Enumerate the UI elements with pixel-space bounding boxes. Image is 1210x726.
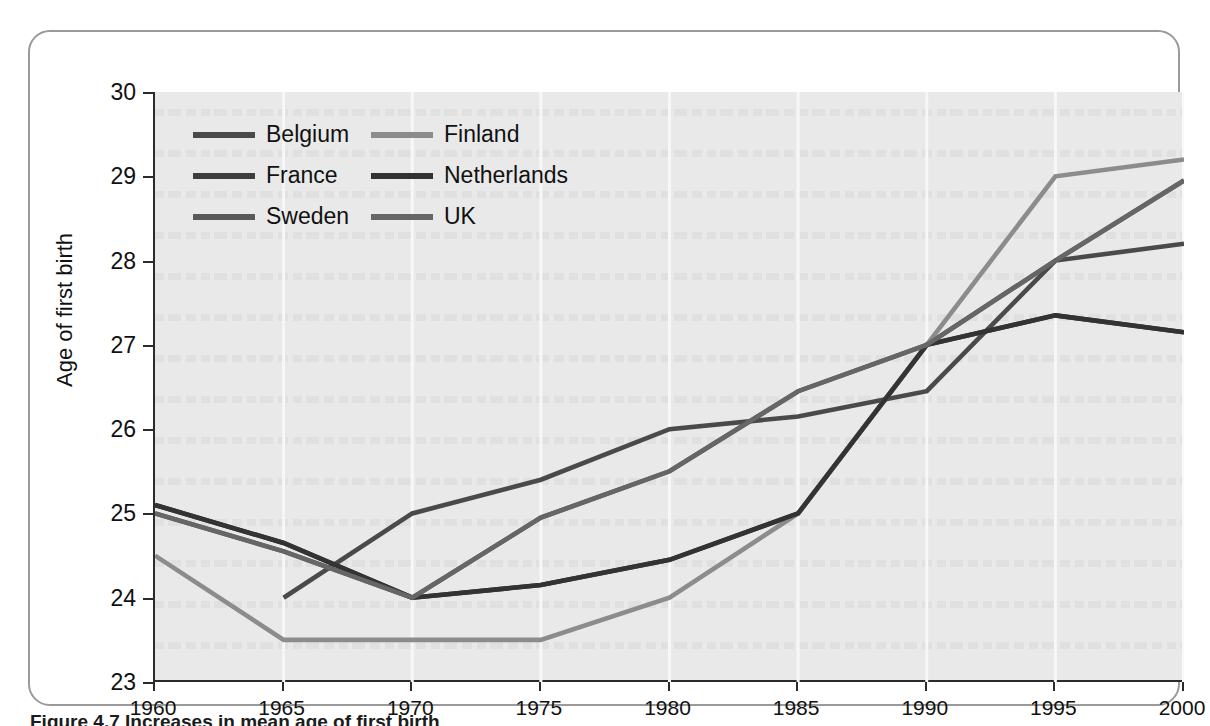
chart-legend: BelgiumFinlandFranceNetherlandsSwedenUK: [193, 114, 561, 237]
x-tick-mark-1970: [410, 682, 412, 691]
series-line-sweden: [155, 181, 1184, 598]
x-tick-label-1980: 1980: [623, 696, 713, 720]
y-tick-mark-24: [143, 598, 153, 600]
y-tick-mark-27: [143, 345, 153, 347]
x-tick-mark-2000: [1182, 682, 1184, 691]
y-tick-mark-29: [143, 176, 153, 178]
legend-label-uk: UK: [444, 203, 476, 230]
legend-item-belgium: Belgium: [193, 121, 371, 148]
legend-label-netherlands: Netherlands: [444, 162, 568, 189]
y-tick-mark-23: [143, 682, 153, 684]
x-tick-label-1995: 1995: [1008, 696, 1098, 720]
y-tick-label-30: 30: [96, 81, 136, 104]
x-tick-label-1985: 1985: [751, 696, 841, 720]
legend-swatch-finland: [371, 132, 433, 138]
figure-frame: BelgiumFinlandFranceNetherlandsSwedenUK …: [28, 30, 1180, 706]
legend-item-uk: UK: [371, 203, 561, 230]
y-tick-label-23: 23: [96, 671, 136, 694]
x-tick-mark-1965: [282, 682, 284, 691]
legend-item-finland: Finland: [371, 121, 561, 148]
x-tick-mark-1990: [925, 682, 927, 691]
legend-label-france: France: [266, 162, 338, 189]
x-tick-mark-1975: [539, 682, 541, 691]
series-line-belgium: [284, 244, 1184, 598]
figure-caption-number: Figure 4.7: [30, 711, 120, 726]
chart-plot-area: BelgiumFinlandFranceNetherlandsSwedenUK: [153, 92, 1182, 682]
legend-item-france: France: [193, 162, 371, 189]
legend-label-sweden: Sweden: [266, 203, 349, 230]
figure-caption: Figure 4.7 Increases in mean age of firs…: [30, 711, 440, 726]
y-tick-mark-28: [143, 261, 153, 263]
x-tick-mark-1985: [796, 682, 798, 691]
x-tick-mark-1980: [668, 682, 670, 691]
y-tick-mark-30: [143, 92, 153, 94]
x-tick-label-1975: 1975: [494, 696, 584, 720]
y-tick-label-29: 29: [96, 165, 136, 188]
x-tick-label-1990: 1990: [880, 696, 970, 720]
y-tick-label-27: 27: [96, 333, 136, 356]
legend-swatch-uk: [371, 214, 433, 220]
legend-item-netherlands: Netherlands: [371, 162, 561, 189]
legend-swatch-netherlands: [371, 173, 433, 179]
x-tick-mark-1995: [1053, 682, 1055, 691]
legend-label-finland: Finland: [444, 121, 519, 148]
y-tick-label-24: 24: [96, 586, 136, 609]
x-tick-mark-1960: [153, 682, 155, 691]
y-tick-label-26: 26: [96, 418, 136, 441]
series-line-netherlands: [155, 315, 1184, 597]
y-axis-title: Age of first birth: [52, 233, 78, 387]
y-tick-mark-26: [143, 429, 153, 431]
legend-swatch-france: [193, 173, 255, 179]
x-tick-label-2000: 2000: [1137, 696, 1210, 720]
y-tick-label-28: 28: [96, 249, 136, 272]
legend-label-belgium: Belgium: [266, 121, 349, 148]
y-tick-mark-25: [143, 513, 153, 515]
figure-caption-text: Increases in mean age of first birth: [125, 711, 440, 726]
series-line-uk: [155, 181, 1184, 598]
legend-item-sweden: Sweden: [193, 203, 371, 230]
legend-swatch-belgium: [193, 132, 255, 138]
legend-swatch-sweden: [193, 214, 255, 220]
y-tick-label-25: 25: [96, 502, 136, 525]
